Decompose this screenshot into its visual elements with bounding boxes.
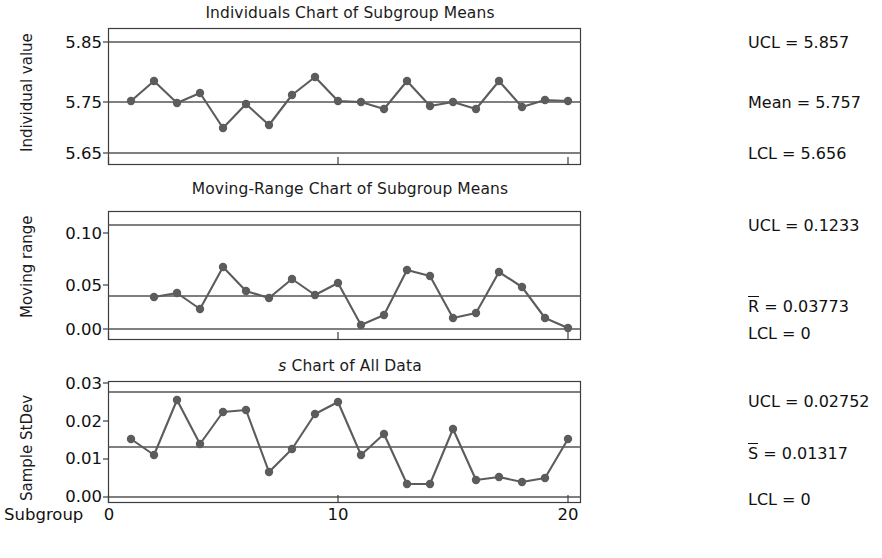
x-tick-2: 20 bbox=[553, 505, 583, 524]
plot-area-moving-range bbox=[0, 178, 882, 353]
series-s-chart bbox=[127, 396, 572, 488]
plot-area-individuals bbox=[0, 0, 882, 178]
panel-moving-range: Moving-Range Chart of Subgroup Means Mov… bbox=[0, 178, 882, 353]
x-tick-1: 10 bbox=[323, 505, 353, 524]
x-axis-label: Subgroup bbox=[4, 505, 83, 524]
series-markers-moving-range bbox=[150, 263, 572, 332]
plot-area-s-chart bbox=[0, 353, 882, 558]
series-markers-s-chart bbox=[127, 396, 572, 488]
series-line-moving-range bbox=[154, 267, 568, 328]
control-chart-figure: Individuals Chart of Subgroup Means Indi… bbox=[0, 0, 882, 558]
panel-individuals: Individuals Chart of Subgroup Means Indi… bbox=[0, 0, 882, 178]
panel-s-chart: s Chart of All Data Sample StDev 0.03 0.… bbox=[0, 353, 882, 558]
series-moving-range bbox=[150, 263, 572, 332]
x-tick-0: 0 bbox=[94, 505, 124, 524]
